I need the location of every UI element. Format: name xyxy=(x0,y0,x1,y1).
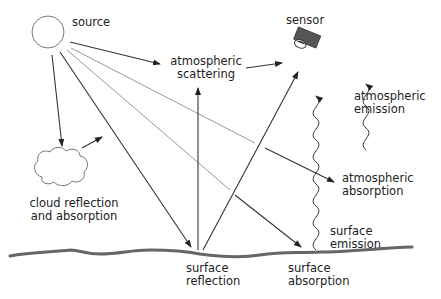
arrow-to-surface-absorption xyxy=(235,195,301,247)
arrow-to-atmospheric-absorption xyxy=(265,148,334,182)
label-atmospheric-scattering: atmospheric scattering xyxy=(168,55,244,81)
label-atmospheric-emission: atmospheric emission xyxy=(354,90,426,116)
arrow-cloud-reflection xyxy=(82,137,102,148)
arrow-surface-reflection-to-sensor xyxy=(203,72,298,250)
cloud-icon xyxy=(35,147,88,185)
arrow-source-to-cloud xyxy=(52,55,62,146)
label-surface-absorption: surface absorption xyxy=(288,262,349,288)
label-source: source xyxy=(72,16,110,29)
label-cloud-reflection-absorption: cloud reflection and absorption xyxy=(24,197,124,223)
label-surface-emission: surface emission xyxy=(330,225,381,251)
arrow-source-to-scattering xyxy=(70,42,160,64)
arrow-scattering-to-sensor xyxy=(246,63,282,68)
sensor-icon xyxy=(291,27,320,54)
wave-surface-emission xyxy=(313,96,319,250)
source-sun-icon xyxy=(32,16,64,48)
label-atmospheric-absorption: atmospheric absorption xyxy=(342,172,414,198)
diagram-canvas xyxy=(0,0,441,299)
label-surface-reflection: surface reflection xyxy=(186,262,240,288)
label-sensor: sensor xyxy=(286,14,324,27)
